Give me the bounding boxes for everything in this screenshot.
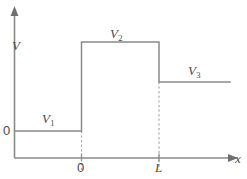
region-label-v2-base: V — [110, 26, 118, 41]
y-axis-label: V — [12, 39, 20, 52]
region-label-v1: V1 — [42, 112, 54, 125]
region-label-v1-base: V — [42, 111, 50, 126]
x-tick-label-0: 0 — [77, 161, 84, 174]
y-axis-arrowhead — [11, 6, 19, 16]
region-label-v3: V3 — [188, 64, 200, 77]
region-label-v2-subscript: 2 — [118, 33, 122, 43]
step-potential-figure: V 0 V1 V2 V3 0 L x — [0, 0, 247, 179]
region-label-v2: V2 — [110, 27, 122, 40]
x-tick-label-L: L — [155, 161, 162, 174]
region-label-v3-base: V — [188, 63, 196, 78]
x-axis-label: x — [235, 152, 241, 165]
region-label-v3-subscript: 3 — [196, 70, 200, 80]
figure-canvas — [0, 0, 247, 179]
region-label-v1-subscript: 1 — [50, 118, 54, 128]
y-axis-origin-label: 0 — [3, 124, 10, 137]
